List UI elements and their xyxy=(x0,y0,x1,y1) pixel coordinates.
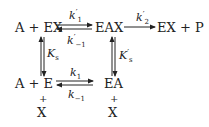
species-x-right: X xyxy=(108,106,117,119)
plus-sign-left: + xyxy=(39,94,47,104)
label-k1: k1 xyxy=(70,67,81,81)
species-ex-plus-p: EX + P xyxy=(157,21,204,34)
right-vertical-equilibrium-arrow xyxy=(112,37,115,76)
bottom-reversible-arrow xyxy=(56,81,93,85)
label-k-minus1-prime: k′−1 xyxy=(67,33,86,49)
label-k2-prime: k′2 xyxy=(136,10,149,26)
label-Ks: Ks xyxy=(47,48,59,62)
label-k1-prime: k′1 xyxy=(69,8,82,24)
species-ea: EA xyxy=(104,77,123,90)
species-eax: EAX xyxy=(95,21,123,34)
species-a-plus-e: A + E xyxy=(15,77,53,90)
plus-sign-right: + xyxy=(110,94,118,104)
left-vertical-equilibrium-arrow xyxy=(41,37,44,76)
species-a-plus-ex: A + EX xyxy=(15,21,62,34)
label-Ks-prime: K′s xyxy=(119,48,133,64)
label-k-minus1: k−1 xyxy=(68,89,85,103)
species-x-left: X xyxy=(37,106,46,119)
